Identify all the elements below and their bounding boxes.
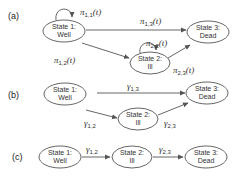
label-gamma-1-3: γ1,3 [127,81,140,92]
panel-label-c: (c) [12,152,23,162]
svg-text:Ill: Ill [135,119,141,126]
svg-text:Well: Well [53,157,67,164]
label-pi-1-1: π1,1(t) [80,7,101,18]
svg-text:State 1:: State 1: [53,86,77,93]
svg-text:State 1:: State 1: [52,23,76,30]
multistate-model-diagram: (a) State 1: Well State 3: Dead State 2:… [0,0,240,178]
panel-b: (b) State 1: Well State 3: Dead State 2:… [8,81,228,130]
label-pi-1-2: π1,2(t) [54,55,75,66]
state-3-node: State 3: Dead [186,82,228,104]
label-gamma-1-2: γ1,2 [84,118,97,129]
edge-1-1 [56,9,72,20]
edge-2-3 [168,45,190,58]
state-1-node: State 1: Well [39,146,81,168]
svg-text:Well: Well [57,31,71,38]
svg-text:Well: Well [58,94,72,101]
edge-2-3 [158,103,188,115]
svg-text:State 3:: State 3: [196,24,220,31]
label-pi-1-3: π1,3(t) [140,16,161,27]
state-1-node: State 1: Well [44,83,86,105]
svg-text:State 2:: State 2: [138,55,162,62]
label-pi-2-2: π2,2(t) [146,38,167,49]
label-gamma-2-3: γ2,3 [159,144,172,155]
panel-label-a: (a) [8,11,19,21]
panel-label-b: (b) [8,90,19,100]
state-1-node: State 1: Well [43,20,85,42]
svg-text:State 2:: State 2: [126,111,150,118]
state-3-node: State 3: Dead [185,146,227,168]
state-2-node: State 2: Ill [118,108,158,130]
svg-text:State 2:: State 2: [120,149,144,156]
edge-1-2 [86,110,117,118]
state-3-node: State 3: Dead [187,21,229,43]
panel-a: (a) State 1: Well State 3: Dead State 2:… [8,7,229,76]
label-gamma-2-3: γ2,3 [164,118,177,129]
svg-text:Ill: Ill [129,157,135,164]
svg-text:Dead: Dead [198,157,215,164]
svg-text:State 3:: State 3: [194,149,218,156]
panel-c: (c) State 1: Well State 2: Ill State 3: … [12,144,227,168]
edge-1-2 [82,43,129,58]
label-pi-2-3: π2,3(t) [173,65,194,76]
svg-text:State 1:: State 1: [48,149,72,156]
state-2-node: State 2: Ill [130,52,170,74]
svg-text:Ill: Ill [147,63,153,70]
svg-text:State 3:: State 3: [195,85,219,92]
label-gamma-1-2: γ1,2 [86,144,99,155]
state-2-node: State 2: Ill [112,146,152,168]
svg-text:Dead: Dead [200,32,217,39]
svg-text:Dead: Dead [199,93,216,100]
